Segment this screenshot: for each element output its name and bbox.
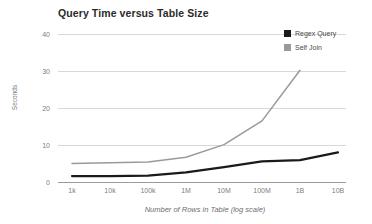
legend-label: Self Join: [295, 44, 322, 51]
legend-label: Regex Query: [295, 30, 336, 37]
legend-swatch-icon: [284, 44, 291, 51]
series-line-self-join: [72, 70, 300, 163]
series-line-regex-query: [72, 152, 338, 176]
chart-container: Query Time versus Table Size Seconds Num…: [0, 0, 372, 224]
legend-item[interactable]: Regex Query: [284, 29, 336, 38]
legend-swatch-icon: [284, 30, 291, 37]
legend-item[interactable]: Self Join: [284, 43, 336, 52]
chart-legend: Regex QuerySelf Join: [284, 29, 336, 57]
